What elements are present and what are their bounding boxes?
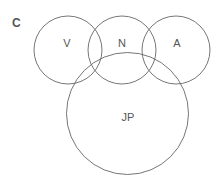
set-label-n: N: [118, 37, 126, 49]
set-label-jp: JP: [122, 111, 135, 123]
set-label-v: V: [63, 37, 71, 49]
venn-diagram: C V N A JP: [0, 0, 221, 187]
set-circle-v: [34, 16, 102, 84]
panel-label: C: [12, 16, 21, 30]
set-label-a: A: [173, 37, 181, 49]
set-circle-a: [142, 16, 210, 84]
set-circle-n: [88, 16, 156, 84]
